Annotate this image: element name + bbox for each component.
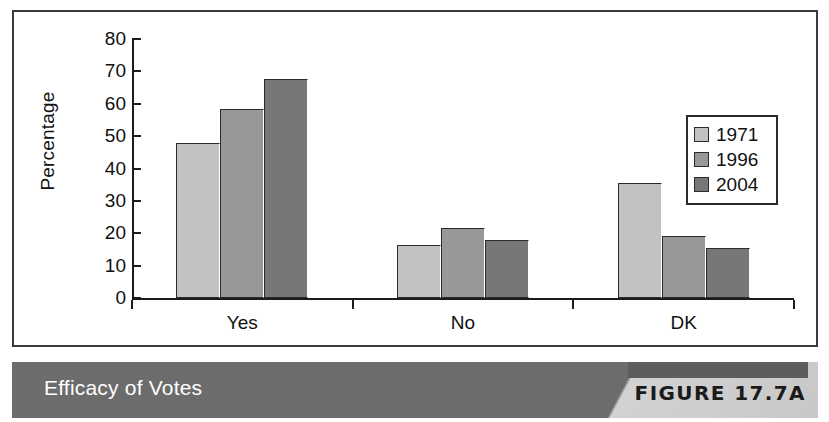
x-axis-label-dk: DK xyxy=(624,312,744,334)
figure-container: Percentage 01020304050607080 YesNoDK 197… xyxy=(0,0,829,422)
caption-title: Efficacy of Votes xyxy=(44,376,202,400)
x-axis-tick xyxy=(131,300,133,309)
chart-legend: 197119962004 xyxy=(686,115,778,205)
x-axis-label-yes: Yes xyxy=(182,312,302,334)
bar-no-1971 xyxy=(397,245,441,298)
legend-item-1996: 1996 xyxy=(694,147,770,172)
legend-label: 1971 xyxy=(716,125,758,144)
legend-label: 1996 xyxy=(716,150,758,169)
bar-dk-2004 xyxy=(706,248,750,298)
x-axis-tick xyxy=(572,300,574,309)
legend-label: 2004 xyxy=(716,175,758,194)
x-axis-label-no: No xyxy=(403,312,523,334)
bar-yes-1996 xyxy=(220,109,264,298)
x-axis-tick xyxy=(793,300,795,309)
bar-yes-1971 xyxy=(176,143,220,298)
legend-swatch-icon xyxy=(694,152,709,167)
legend-item-2004: 2004 xyxy=(694,172,770,197)
chart-plot-area: Percentage 01020304050607080 YesNoDK 197… xyxy=(14,12,820,349)
x-axis-tick xyxy=(352,300,354,309)
bar-yes-2004 xyxy=(264,79,308,298)
bar-no-2004 xyxy=(485,240,529,298)
chart-frame: Percentage 01020304050607080 YesNoDK 197… xyxy=(12,10,818,347)
bar-dk-1996 xyxy=(662,236,706,298)
bar-no-1996 xyxy=(441,228,485,298)
legend-swatch-icon xyxy=(694,177,709,192)
caption-banner: Efficacy of Votes FIGURE 17.7A xyxy=(12,362,818,418)
caption-dark-block-decoration xyxy=(628,362,808,378)
figure-number-label: FIGURE 17.7A xyxy=(635,381,806,405)
legend-swatch-icon xyxy=(694,127,709,142)
bar-dk-1971 xyxy=(618,183,662,298)
legend-item-1971: 1971 xyxy=(694,122,770,147)
x-axis-line xyxy=(132,298,794,300)
